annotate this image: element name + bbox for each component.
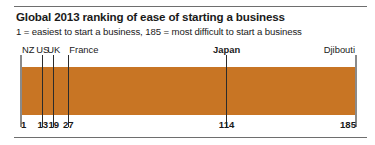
tick-line-djibouti [355, 55, 356, 127]
chart-title: Global 2013 ranking of ease of starting … [16, 10, 285, 23]
tick-line-us [42, 55, 43, 127]
marker-value-djibouti: 185 [340, 120, 356, 130]
marker-value-nz: 1 [21, 120, 26, 130]
marker-value-japan: 114 [219, 120, 234, 130]
divider-bottom [14, 137, 367, 138]
marker-label-nz: NZ [22, 45, 35, 54]
tick-line-uk [53, 55, 54, 127]
chart-subtitle: 1 = easiest to start a business, 185 = m… [16, 26, 302, 37]
marker-value-uk: 19 [48, 120, 59, 130]
chart-figure: Global 2013 ranking of ease of starting … [0, 0, 375, 145]
tick-line-france [68, 55, 69, 127]
marker-label-japan: Japan [213, 45, 240, 54]
marker-label-djibouti: Djibouti [324, 45, 355, 54]
marker-value-france: 27 [63, 120, 74, 130]
plot-area: NZ 1 US 13 UK 19 France 27 Japan 114 [21, 67, 356, 115]
tick-line-japan [226, 55, 227, 127]
marker-label-uk: UK [47, 45, 60, 54]
tick-line-nz [20, 55, 21, 127]
marker-label-france: France [69, 45, 98, 54]
divider-top [14, 6, 367, 7]
range-bar [21, 67, 356, 115]
marker-value-us: 13 [37, 120, 48, 130]
